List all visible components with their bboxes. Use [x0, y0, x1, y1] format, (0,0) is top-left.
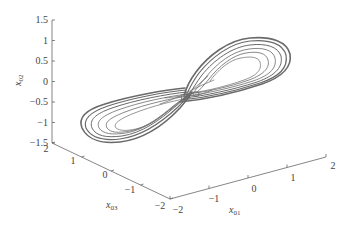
x03-tick-neg1: −1: [125, 184, 136, 195]
z-tick-0: 0: [43, 76, 48, 87]
x03-axis-label: x03: [105, 199, 118, 212]
attractor-trajectory: [81, 38, 290, 143]
x03-tick-1: 1: [71, 155, 76, 166]
z-axis: 1.5 1 0.5 0 −0.5 −1 −1.5 x02: [12, 14, 55, 148]
x01-tick-neg2: −2: [173, 204, 184, 215]
z-axis-label: x02: [12, 74, 25, 87]
x01-tick-0: 0: [252, 183, 257, 194]
x01-tick-1: 1: [291, 172, 296, 183]
attractor-3d-plot: 1.5 1 0.5 0 −0.5 −1 −1.5 x02 2 1 0 −1 −2…: [0, 0, 346, 229]
z-tick-neg1: −1: [37, 117, 48, 128]
z-tick-1.5: 1.5: [36, 14, 49, 25]
x01-axis-label: x01: [228, 204, 241, 217]
x03-axis: 2 1 0 −1 −2 x03: [44, 142, 174, 212]
z-tick-1: 1: [43, 35, 48, 46]
x03-tick-neg2: −2: [155, 200, 166, 211]
x01-axis: −2 −1 0 1 2 x01: [170, 154, 336, 217]
z-tick-0.5: 0.5: [36, 55, 49, 66]
x01-tick-2: 2: [331, 160, 336, 171]
x01-tick-neg1: −1: [209, 193, 220, 204]
x03-tick-2: 2: [44, 143, 49, 154]
z-tick-neg0.5: −0.5: [30, 96, 48, 107]
x03-tick-0: 0: [103, 169, 108, 180]
